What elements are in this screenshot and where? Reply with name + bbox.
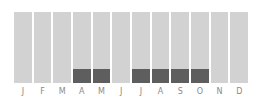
month-bar: [152, 12, 170, 83]
highlight-segment: [132, 69, 150, 83]
month-label: M: [53, 87, 71, 96]
month-bar: [191, 12, 209, 83]
highlight-segment: [152, 69, 170, 83]
month-label: A: [73, 87, 91, 96]
month-bar: [34, 12, 52, 83]
month-bar: [112, 12, 130, 83]
month-bar: [171, 12, 189, 83]
month-label: J: [112, 87, 130, 96]
month-labels: JFMAMJJASOND: [14, 87, 248, 96]
highlight-segment: [191, 69, 209, 83]
month-label: D: [230, 87, 248, 96]
month-bar: [93, 12, 111, 83]
highlight-segment: [171, 69, 189, 83]
month-bar-chart: [14, 12, 248, 83]
month-label: S: [171, 87, 189, 96]
month-bar: [211, 12, 229, 83]
month-label: J: [14, 87, 32, 96]
month-bar: [14, 12, 32, 83]
month-label: M: [93, 87, 111, 96]
month-bar: [230, 12, 248, 83]
highlight-segment: [93, 69, 111, 83]
month-label: N: [211, 87, 229, 96]
month-bar: [53, 12, 71, 83]
month-bar: [132, 12, 150, 83]
month-label: J: [132, 87, 150, 96]
month-label: O: [191, 87, 209, 96]
month-label: A: [152, 87, 170, 96]
month-label: F: [34, 87, 52, 96]
highlight-segment: [73, 69, 91, 83]
month-bar: [73, 12, 91, 83]
